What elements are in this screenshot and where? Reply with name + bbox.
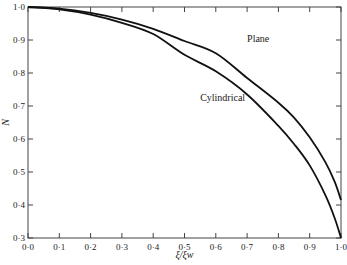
x-tick-label: 0·4 [147, 242, 159, 252]
x-axis-label: ξ/ξw [175, 249, 193, 261]
y-tick-label: 0·7 [13, 101, 25, 111]
x-tick-label: 0·2 [85, 242, 97, 252]
y-tick-label: 0·3 [13, 233, 25, 243]
x-tick-label: 1·0 [335, 242, 347, 252]
x-tick-label: 0·8 [272, 242, 284, 252]
y-tick-label: 0·6 [13, 134, 25, 144]
y-tick-label: 0·9 [13, 35, 25, 45]
y-tick-label: 0·4 [13, 200, 25, 210]
series-plane [28, 7, 341, 200]
x-tick-label: 0·0 [22, 242, 34, 252]
curve-label-cylindrical: Cylindrical [200, 92, 245, 103]
x-tick-label: 0·1 [53, 242, 65, 252]
x-tick-label: 0·3 [116, 242, 128, 252]
line-chart: 0·00·10·20·30·40·50·60·70·80·91·00·30·40… [0, 0, 347, 265]
y-tick-label: 0·5 [13, 167, 25, 177]
y-tick-label: 0·8 [13, 68, 25, 78]
x-tick-label: 0·7 [241, 242, 253, 252]
curve-label-plane: Plane [247, 33, 270, 44]
y-axis-label: N [0, 118, 11, 127]
y-tick-label: 1·0 [13, 2, 25, 12]
x-tick-label: 0·9 [304, 242, 316, 252]
x-tick-label: 0·6 [210, 242, 222, 252]
